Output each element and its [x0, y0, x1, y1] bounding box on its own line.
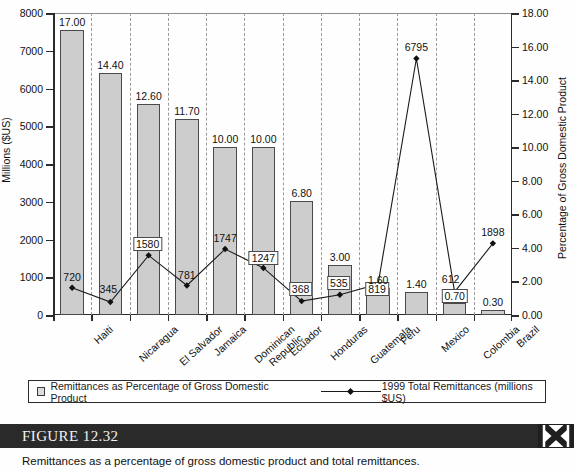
- x-axis-tick: [130, 315, 132, 321]
- y-axis-right-tick: [512, 315, 519, 317]
- x-axis-tick: [206, 315, 208, 321]
- x-axis-tick: [474, 315, 476, 321]
- y-axis-left-tick-label: 2000: [20, 234, 43, 246]
- legend-item-line: 1999 Total Remittances (millions $US): [321, 380, 545, 404]
- line-point-label: 720: [63, 271, 81, 283]
- line-point-label: 781: [178, 269, 196, 281]
- y-axis-right-tick-label: 8.00: [522, 175, 542, 187]
- x-axis-category-label: Nicaragua: [137, 323, 181, 364]
- chart-figure: Millions ($US) Percentage of Gross Domes…: [0, 0, 574, 372]
- y-axis-right-tick-label: 2.00: [522, 275, 542, 287]
- y-axis-left-tick: [46, 277, 53, 279]
- x-axis-category-label-line: Mexico: [439, 323, 472, 354]
- x-axis-category-label: Haiti: [92, 323, 116, 346]
- plot-area: 010002000300040005000600070008000 0.002.…: [53, 13, 512, 315]
- y-axis-left-tick: [46, 202, 53, 204]
- y-axis-left-tick-label: 8000: [20, 7, 43, 19]
- y-axis-left-tick-label: 5000: [20, 120, 43, 132]
- line-point-label: 6795: [405, 41, 428, 53]
- line-point-label: 368: [289, 282, 313, 296]
- y-axis-right-tick-label: 0.00: [522, 309, 542, 321]
- y-axis-right-tick: [512, 114, 519, 116]
- bar-value-label: 1.60: [368, 274, 388, 286]
- x-axis-tick: [244, 315, 246, 321]
- bar-value-label: 0.70: [441, 289, 467, 303]
- y-axis-right-tick: [512, 281, 519, 283]
- legend-line-marker-icon: [321, 387, 376, 397]
- y-axis-left-tick: [46, 126, 53, 128]
- line-point-label: 535: [327, 276, 351, 290]
- bar-value-label: 10.00: [212, 133, 238, 145]
- figure-number: 12.32: [83, 428, 119, 444]
- y-axis-right-tick-label: 6.00: [522, 208, 542, 220]
- y-axis-left-tick: [46, 13, 53, 15]
- bar-value-label: 17.00: [59, 16, 85, 28]
- bar-value-label: 12.60: [135, 90, 161, 102]
- x-axis-tick: [321, 315, 323, 321]
- figure-label-word: FIGURE: [22, 428, 79, 444]
- y-axis-right-tick-label: 12.00: [522, 108, 548, 120]
- line-marker: [413, 55, 419, 61]
- y-axis-left-title: Millions ($US): [0, 117, 12, 182]
- y-axis-right-tick-label: 14.00: [522, 74, 548, 86]
- bar-value-label: 3.00: [330, 251, 350, 263]
- figure-title-text: FIGURE 12.32: [22, 428, 118, 445]
- figure-title-bar: FIGURE 12.32: [0, 424, 574, 448]
- y-axis-right-tick: [512, 181, 519, 183]
- bar-value-label: 6.80: [291, 187, 311, 199]
- legend-line-label: 1999 Total Remittances (millions $US): [382, 380, 545, 404]
- line-point-label: 612: [442, 273, 460, 285]
- line-point-label: 1247: [249, 251, 278, 265]
- y-axis-right-tick: [512, 80, 519, 82]
- y-axis-right-tick: [512, 248, 519, 250]
- x-axis-tick: [397, 315, 399, 321]
- figure-caption-text: Remittances as a percentage of gross dom…: [22, 455, 574, 467]
- x-axis-tick: [359, 315, 361, 321]
- bar-value-label: 10.00: [250, 133, 276, 145]
- x-axis-category-label-line: Haiti: [92, 323, 116, 346]
- y-axis-right-title: Percentage of Gross Domestic Product: [556, 77, 568, 259]
- x-axis-category-label-line: Nicaragua: [137, 323, 181, 364]
- y-axis-left-tick: [46, 164, 53, 166]
- line-point-label: 1898: [481, 226, 504, 238]
- figure-page: Millions ($US) Percentage of Gross Domes…: [0, 0, 574, 469]
- x-axis-tick: [283, 315, 285, 321]
- bar-value-label: 11.70: [174, 105, 200, 117]
- line-point-label: 345: [100, 283, 118, 295]
- y-axis-left-tick-label: 3000: [20, 196, 43, 208]
- legend-bar-swatch-icon: [37, 387, 45, 396]
- x-axis-category-label-line: Honduras: [327, 323, 369, 362]
- y-axis-left-tick-label: 0: [37, 309, 43, 321]
- bar-value-label: 1.40: [406, 278, 426, 290]
- x-axis-tick: [436, 315, 438, 321]
- x-axis-category-label: Honduras: [327, 323, 369, 362]
- line-point-label: 1580: [133, 237, 162, 251]
- y-axis-right-tick: [512, 147, 519, 149]
- y-axis-right-tick: [512, 214, 519, 216]
- y-axis-left-tick-label: 6000: [20, 83, 43, 95]
- y-axis-left-tick: [46, 89, 53, 91]
- x-axis-tick: [53, 315, 55, 321]
- legend-bars-label: Remittances as Percentage of Gross Domes…: [50, 380, 286, 404]
- y-axis-right-tick-label: 4.00: [522, 242, 542, 254]
- line-series: [53, 13, 512, 315]
- legend-item-bars: Remittances as Percentage of Gross Domes…: [37, 380, 287, 404]
- line-marker: [337, 292, 343, 298]
- y-axis-right-tick: [512, 13, 519, 15]
- x-axis-tick: [91, 315, 93, 321]
- x-icon[interactable]: [538, 424, 574, 448]
- bar-value-label: 14.40: [97, 59, 123, 71]
- y-axis-left-tick: [46, 315, 53, 317]
- bar-value-label: 0.30: [483, 296, 503, 308]
- x-axis-tick: [168, 315, 170, 321]
- figure-caption-block: FIGURE 12.32 Remittances as a percentage…: [0, 424, 574, 467]
- y-axis-left-tick-label: 4000: [20, 158, 43, 170]
- x-axis-category-label: Mexico: [439, 323, 472, 354]
- y-axis-left-tick: [46, 51, 53, 53]
- y-axis-right-tick-label: 18.00: [522, 7, 548, 19]
- x-axis-tick: [511, 315, 513, 321]
- y-axis-left-tick-label: 7000: [20, 45, 43, 57]
- y-axis-right-tick: [512, 47, 519, 49]
- line-point-label: 1747: [213, 232, 236, 244]
- line-marker: [69, 285, 75, 291]
